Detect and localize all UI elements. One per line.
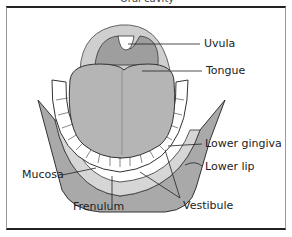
label-tongue: Tongue	[206, 65, 245, 77]
label-uvula: Uvula	[204, 38, 235, 50]
label-lower-gingiva: Lower gingiva	[205, 138, 282, 150]
label-frenulum: Frenulum	[73, 201, 124, 213]
label-lower-lip: Lower lip	[205, 161, 255, 173]
label-mucosa: Mucosa	[22, 169, 64, 181]
label-vestibule: Vestibule	[183, 200, 233, 212]
mouth-anatomy-illustration	[0, 0, 292, 237]
